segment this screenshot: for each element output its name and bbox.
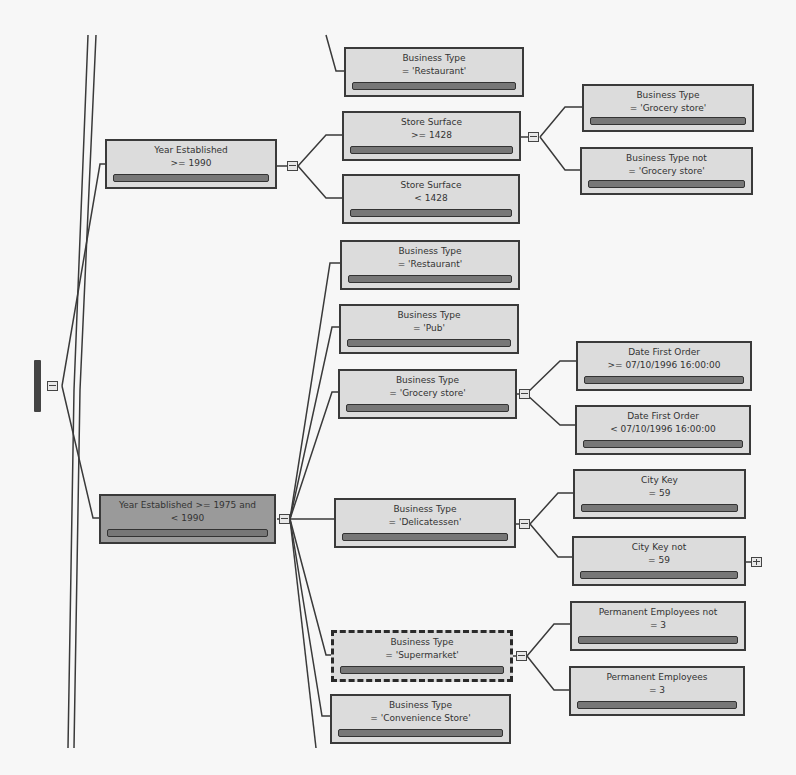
node-label: Business Type	[332, 699, 509, 712]
node-distribution-bar	[584, 376, 744, 384]
node-condition: = 'Grocery store'	[582, 165, 751, 178]
tree-node-business-type-not-grocery-store[interactable]: Business Type not = 'Grocery store'	[580, 147, 753, 195]
tree-node-city-key-59[interactable]: City Key = 59	[573, 469, 746, 519]
node-condition: >= 1428	[344, 129, 519, 142]
node-label: Permanent Employees not	[572, 606, 744, 619]
node-label: Business Type	[342, 245, 518, 258]
node-condition: = 'Delicatessen'	[336, 516, 514, 529]
tree-node-business-type-delicatessen[interactable]: Business Type = 'Delicatessen'	[334, 498, 516, 548]
node-distribution-bar	[338, 729, 503, 737]
node-distribution-bar	[350, 209, 512, 217]
node-label: Business Type	[336, 503, 514, 516]
tree-node-date-first-order-lt[interactable]: Date First Order < 07/10/1996 16:00:00	[575, 405, 751, 455]
node-distribution-bar	[342, 533, 508, 541]
node-label: Date First Order	[578, 346, 750, 359]
node-condition: = 3	[571, 684, 743, 697]
node-condition: < 1428	[344, 192, 518, 205]
node-distribution-bar	[578, 636, 738, 644]
collapse-minus-icon[interactable]	[47, 381, 58, 391]
collapse-minus-icon[interactable]	[519, 389, 530, 399]
root-node-handle[interactable]	[34, 360, 41, 412]
collapse-minus-icon[interactable]	[279, 514, 290, 524]
tree-node-year-established-1990[interactable]: Year Established >= 1990	[105, 139, 277, 189]
node-distribution-bar	[352, 82, 516, 90]
node-condition: = 59	[575, 487, 744, 500]
tree-node-permanent-employees-not-3[interactable]: Permanent Employees not = 3	[570, 601, 746, 651]
node-label: Business Type	[584, 89, 752, 102]
tree-node-business-type-supermarket[interactable]: Business Type = 'Supermarket'	[331, 630, 513, 682]
collapse-minus-icon[interactable]	[528, 132, 539, 142]
node-distribution-bar	[583, 440, 743, 448]
node-distribution-bar	[347, 339, 511, 347]
tree-node-business-type-restaurant[interactable]: Business Type = 'Restaurant'	[340, 240, 520, 290]
node-condition: = 59	[574, 554, 744, 567]
collapse-minus-icon[interactable]	[519, 519, 530, 529]
collapse-minus-icon[interactable]	[516, 651, 527, 661]
node-condition: = 'Grocery store'	[584, 102, 752, 115]
node-condition: >= 07/10/1996 16:00:00	[578, 359, 750, 372]
node-condition: >= 1990	[107, 157, 275, 170]
node-label: Business Type	[334, 636, 510, 649]
collapse-minus-icon[interactable]	[287, 161, 298, 171]
tree-node-store-surface-gte-1428[interactable]: Store Surface >= 1428	[342, 111, 521, 161]
node-condition: = 'Restaurant'	[342, 258, 518, 271]
tree-node-date-first-order-gte[interactable]: Date First Order >= 07/10/1996 16:00:00	[576, 341, 752, 391]
node-distribution-bar	[581, 504, 738, 512]
node-label: Permanent Employees	[571, 671, 743, 684]
node-condition: = 'Supermarket'	[334, 649, 510, 662]
node-condition: = 'Grocery store'	[340, 387, 515, 400]
node-distribution-bar	[350, 146, 513, 154]
tree-node-year-established-1975-1990[interactable]: Year Established >= 1975 and < 1990	[99, 494, 276, 544]
tree-node-city-key-not-59[interactable]: City Key not = 59	[572, 536, 746, 586]
node-label: City Key not	[574, 541, 744, 554]
node-distribution-bar	[346, 404, 509, 412]
node-label: Date First Order	[577, 410, 749, 423]
node-distribution-bar	[588, 180, 745, 188]
node-distribution-bar	[577, 701, 737, 709]
node-condition: = 3	[572, 619, 744, 632]
node-label: Business Type	[340, 374, 515, 387]
node-condition: < 07/10/1996 16:00:00	[577, 423, 749, 436]
node-condition: = 'Pub'	[341, 322, 517, 335]
node-condition: = 'Convenience Store'	[332, 712, 509, 725]
node-label: Store Surface	[344, 116, 519, 129]
tree-node-business-type-restaurant-top[interactable]: Business Type = 'Restaurant'	[344, 47, 524, 97]
node-distribution-bar	[348, 275, 512, 283]
node-distribution-bar	[590, 117, 746, 125]
decision-tree-canvas: Year Established >= 1990 Year Establishe…	[0, 0, 796, 775]
node-condition: < 1990	[101, 512, 274, 525]
tree-node-business-type-pub[interactable]: Business Type = 'Pub'	[339, 304, 519, 354]
node-label: Store Surface	[344, 179, 518, 192]
tree-node-business-type-grocery-store[interactable]: Business Type = 'Grocery store'	[338, 369, 517, 419]
node-label: Business Type	[346, 52, 522, 65]
tree-node-store-surface-lt-1428[interactable]: Store Surface < 1428	[342, 174, 520, 224]
node-distribution-bar	[340, 666, 504, 674]
node-label: City Key	[575, 474, 744, 487]
node-label: Year Established >= 1975 and	[101, 499, 274, 512]
node-distribution-bar	[107, 529, 268, 537]
node-condition: = 'Restaurant'	[346, 65, 522, 78]
node-distribution-bar	[580, 571, 738, 579]
tree-node-permanent-employees-3[interactable]: Permanent Employees = 3	[569, 666, 745, 716]
expand-plus-icon[interactable]	[751, 557, 762, 567]
tree-node-business-type-convenience-store[interactable]: Business Type = 'Convenience Store'	[330, 694, 511, 744]
node-label: Business Type not	[582, 152, 751, 165]
node-distribution-bar	[113, 174, 269, 182]
node-label: Year Established	[107, 144, 275, 157]
tree-node-business-type-grocery-store-leaf[interactable]: Business Type = 'Grocery store'	[582, 84, 754, 132]
node-label: Business Type	[341, 309, 517, 322]
